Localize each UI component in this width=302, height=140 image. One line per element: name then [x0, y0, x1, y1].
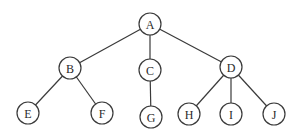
tree-node-g: G — [140, 106, 162, 128]
tree-node-c: C — [139, 59, 161, 81]
tree-node-h: H — [178, 103, 200, 125]
tree-node-i: I — [220, 103, 242, 125]
nodes-layer: ABCDEFGHIJ — [17, 13, 285, 128]
tree-diagram: ABCDEFGHIJ — [0, 0, 302, 140]
tree-node-f: F — [91, 102, 113, 124]
edge-a-b — [70, 24, 150, 68]
tree-node-a: A — [139, 13, 161, 35]
tree-node-e: E — [17, 102, 39, 124]
tree-node-b: B — [59, 57, 81, 79]
node-label: A — [146, 18, 155, 32]
node-label: J — [272, 108, 277, 122]
node-label: H — [185, 108, 194, 122]
node-label: F — [99, 107, 106, 121]
node-label: G — [147, 111, 156, 125]
node-label: C — [146, 64, 154, 78]
tree-node-j: J — [263, 103, 285, 125]
node-label: E — [24, 107, 31, 121]
node-label: D — [227, 61, 236, 75]
node-label: B — [66, 62, 74, 76]
edge-a-d — [150, 24, 231, 67]
tree-node-d: D — [220, 56, 242, 78]
node-label: I — [229, 108, 233, 122]
